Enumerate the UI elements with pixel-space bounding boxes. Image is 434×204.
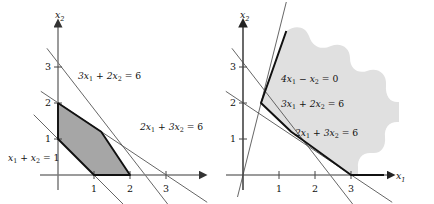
left-label-x1-x2-eq-1: x1 + x2 = 1 [8,152,59,165]
right-panel: 1 2 3 1 2 3 x2 x1 4x1 − x2 = 0 3x1 + 2x2… [226,2,406,204]
left-x-tick-label-2: 2 [127,183,133,194]
right-y-tick-label-1: 1 [230,133,236,144]
right-x-tick-label-2: 2 [312,183,318,194]
figure-root: 1 2 3 1 2 3 x2 3x1 + 2x2 = 6 2x1 + 3x2 =… [0,0,434,204]
right-x-axis-label: x1 [396,170,406,184]
right-y-tick-label-3: 3 [230,61,236,72]
left-x-tick-label-3: 3 [163,183,169,194]
left-x-tick-label-1: 1 [91,183,97,194]
left-y-tick-label-1: 1 [45,133,51,144]
right-y-axis-label: x2 [240,9,250,23]
left-y-tick-label-2: 2 [45,97,51,108]
figure-svg: 1 2 3 1 2 3 x2 3x1 + 2x2 = 6 2x1 + 3x2 =… [0,0,434,204]
right-x-tick-label-1: 1 [276,183,282,194]
left-panel: 1 2 3 1 2 3 x2 3x1 + 2x2 = 6 2x1 + 3x2 =… [8,9,207,204]
feasible-region [58,103,130,175]
left-label-3x1-2x2-eq-6: 3x1 + 2x2 = 6 [78,70,141,83]
right-y-tick-label-2: 2 [230,97,236,108]
left-label-2x1-3x2-eq-6: 2x1 + 3x2 = 6 [139,121,203,134]
right-x-tick-label-3: 3 [348,183,354,194]
left-y-tick-label-3: 3 [45,61,51,72]
left-y-axis-label: x2 [55,9,65,23]
